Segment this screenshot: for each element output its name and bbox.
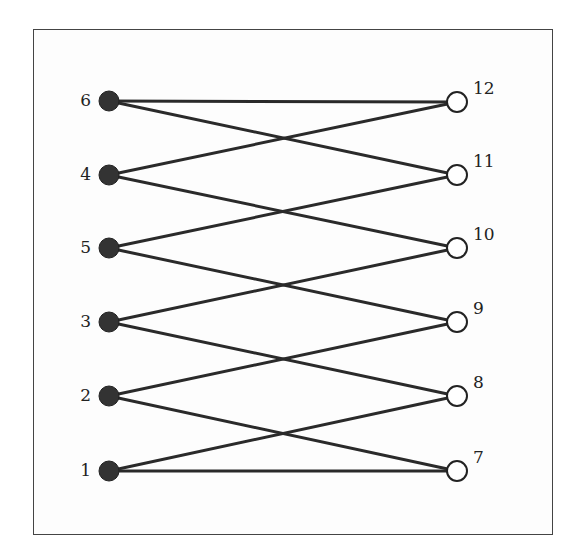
node-5	[99, 238, 119, 258]
bipartite-graph: 645321121110987	[0, 0, 586, 560]
node-label-8: 8	[473, 372, 484, 392]
node-label-12: 12	[473, 78, 495, 98]
node-3	[99, 312, 119, 332]
node-6	[99, 91, 119, 111]
node-11	[447, 165, 467, 185]
node-label-4: 4	[80, 164, 91, 184]
node-2	[99, 386, 119, 406]
node-4	[99, 165, 119, 185]
node-label-3: 3	[80, 311, 91, 331]
edge-6-12	[109, 101, 457, 102]
node-label-11: 11	[473, 151, 495, 171]
node-label-6: 6	[80, 90, 91, 110]
node-label-2: 2	[80, 385, 91, 405]
node-9	[447, 312, 467, 332]
node-label-1: 1	[80, 460, 91, 480]
node-10	[447, 238, 467, 258]
edges-layer	[109, 101, 457, 471]
node-1	[99, 461, 119, 481]
node-label-5: 5	[80, 237, 91, 257]
node-label-10: 10	[473, 224, 495, 244]
node-7	[447, 461, 467, 481]
node-label-9: 9	[473, 298, 484, 318]
node-label-7: 7	[473, 447, 484, 467]
node-12	[447, 92, 467, 112]
node-8	[447, 386, 467, 406]
